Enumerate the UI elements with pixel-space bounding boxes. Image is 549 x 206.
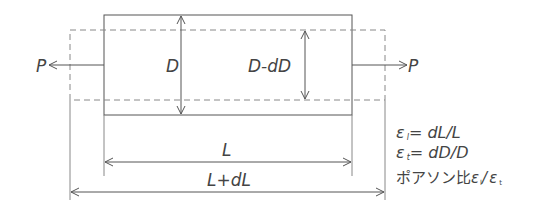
strain-expression: = dD/D <box>410 143 469 162</box>
poisson-ratio-diagram: P P D D-dD L L+dL εl= dL/L εt= dD/D ポアソン… <box>0 0 549 206</box>
strain-expression: = dL/L <box>409 123 461 142</box>
longitudinal-strain-formula: εl= dL/L <box>396 123 461 142</box>
transverse-strain-formula: εt= dD/D <box>396 143 468 162</box>
epsilon-symbol: ε <box>396 123 405 142</box>
length-label: L <box>222 140 231 160</box>
subscript-t: t <box>499 179 502 187</box>
force-label-left: P <box>36 56 47 76</box>
elongated-length-label: L+dL <box>207 170 251 190</box>
deformed-bar-outline <box>70 30 385 100</box>
poisson-ratio-formula: ポアソン比εl/εt <box>396 169 502 187</box>
svg-text:εl= dL/L: εl= dL/L <box>396 123 461 142</box>
epsilon-numerator: ε <box>471 169 479 187</box>
reduced-diameter-label: D-dD <box>248 56 291 76</box>
poisson-ratio-label: ポアソン比 <box>396 169 471 187</box>
epsilon-symbol: ε <box>396 143 405 162</box>
diameter-label: D <box>166 56 179 76</box>
svg-text:ポアソン比εl/εt: ポアソン比εl/εt <box>396 169 502 187</box>
svg-text:εt= dD/D: εt= dD/D <box>396 143 468 162</box>
epsilon-denominator: ε <box>489 169 497 187</box>
force-label-right: P <box>408 56 419 76</box>
division-slash: / <box>480 169 489 187</box>
